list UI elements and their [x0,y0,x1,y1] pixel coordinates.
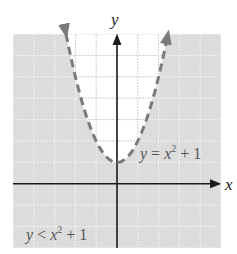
y-axis-label: y [109,10,119,29]
region-inequality-label: y < x2 + 1 [24,224,87,244]
curve-equation-label: y = x2 + 1 [138,143,201,163]
inequality-graph: x y y = x2 + 1 y < x2 + 1 [0,0,237,254]
x-axis-label: x [224,175,233,194]
